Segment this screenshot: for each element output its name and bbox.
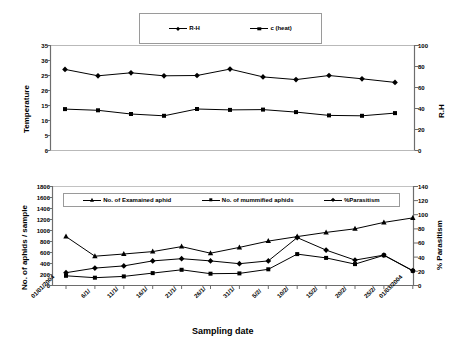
weather-right-tick: 40 bbox=[418, 106, 425, 112]
aphid-right-tick: 80 bbox=[418, 226, 425, 232]
aphid-xtick: 11/1/ bbox=[106, 286, 119, 299]
weather-right-tick: 80 bbox=[418, 64, 425, 70]
legend-label: %Parasitism bbox=[344, 197, 380, 204]
legend-label: c (heat) bbox=[270, 25, 291, 32]
aphid-right-tick: 120 bbox=[418, 198, 428, 204]
legend-label: R-H bbox=[189, 25, 200, 32]
legend-item-parasitism: %Parasitism bbox=[324, 197, 380, 204]
weather-right-axis-title: R.H bbox=[437, 104, 446, 118]
aphid-left-tick: 1600 bbox=[26, 195, 50, 201]
weather-left-tick: 15 bbox=[28, 103, 48, 109]
aphid-left-tick: 400 bbox=[26, 261, 50, 267]
weather-right-tick: 60 bbox=[418, 85, 425, 91]
aphid-xtick: 5/2/ bbox=[251, 288, 262, 299]
legend-item-mummified-aphids: No. of mummified aphids bbox=[202, 197, 294, 204]
square-marker-icon bbox=[250, 25, 268, 32]
diamond-marker-icon bbox=[324, 197, 342, 204]
aphid-xtick: 16/1/ bbox=[135, 286, 149, 300]
aphid-left-tick: 600 bbox=[26, 250, 50, 256]
aphid-xtick: 20/2/ bbox=[334, 286, 348, 300]
aphid-xtick: 6/1/ bbox=[80, 288, 91, 299]
weather-right-tick: 100 bbox=[418, 43, 428, 49]
legend-label: No. of Examained aphid bbox=[103, 197, 171, 204]
aphid-legend: No. of Examained aphid No. of mummified … bbox=[63, 193, 400, 207]
legend-item-rh: R-H bbox=[169, 25, 200, 32]
aphid-chart: No. of aphids / sample % Parasitism 1800… bbox=[0, 180, 451, 342]
aphid-xtick: 31/1/ bbox=[222, 286, 236, 300]
aphid-left-tick: 1800 bbox=[26, 184, 50, 190]
weather-chart: R-H c (heat) Temperature R.H 35 30 25 20… bbox=[0, 0, 451, 180]
triangle-marker-icon bbox=[83, 197, 101, 204]
weather-left-tick: 30 bbox=[28, 58, 48, 64]
aphid-xtick: 10/2/ bbox=[276, 286, 290, 300]
aphid-left-tick: 800 bbox=[26, 239, 50, 245]
square-marker-icon bbox=[202, 197, 220, 204]
legend-item-examined-aphid: No. of Examained aphid bbox=[83, 197, 171, 204]
aphid-xtick: 21/1/ bbox=[164, 286, 178, 300]
figure-root: R-H c (heat) Temperature R.H 35 30 25 20… bbox=[0, 0, 451, 342]
aphid-right-tick: 0 bbox=[418, 283, 421, 289]
legend-item-heat: c (heat) bbox=[250, 25, 291, 32]
weather-right-tick: 20 bbox=[418, 127, 425, 133]
aphid-right-tick: 40 bbox=[418, 255, 425, 261]
aphid-left-tick: 1000 bbox=[26, 228, 50, 234]
aphid-xtick: 25/2/ bbox=[363, 286, 377, 300]
diamond-marker-icon bbox=[169, 25, 187, 32]
aphid-xaxis-title: Sampling date bbox=[192, 326, 254, 336]
aphid-left-tick: 1200 bbox=[26, 217, 50, 223]
aphid-right-tick: 100 bbox=[418, 212, 428, 218]
weather-plot bbox=[50, 45, 415, 151]
aphid-right-tick: 20 bbox=[418, 269, 425, 275]
weather-left-tick: 0 bbox=[28, 148, 48, 154]
weather-left-tick: 5 bbox=[28, 133, 48, 139]
weather-left-tick: 20 bbox=[28, 88, 48, 94]
aphid-left-tick: 1400 bbox=[26, 206, 50, 212]
aphid-xtick: 26/1/ bbox=[193, 286, 207, 300]
aphid-xtick: 15/2/ bbox=[305, 286, 319, 300]
weather-legend: R-H c (heat) bbox=[139, 13, 322, 44]
aphid-right-axis-title: % Parasitism bbox=[435, 220, 444, 270]
aphid-right-tick: 140 bbox=[418, 184, 428, 190]
legend-label: No. of mummified aphids bbox=[222, 197, 294, 204]
weather-left-tick: 25 bbox=[28, 73, 48, 79]
weather-left-tick: 35 bbox=[28, 43, 48, 49]
aphid-right-tick: 60 bbox=[418, 240, 425, 246]
weather-left-tick: 10 bbox=[28, 118, 48, 124]
